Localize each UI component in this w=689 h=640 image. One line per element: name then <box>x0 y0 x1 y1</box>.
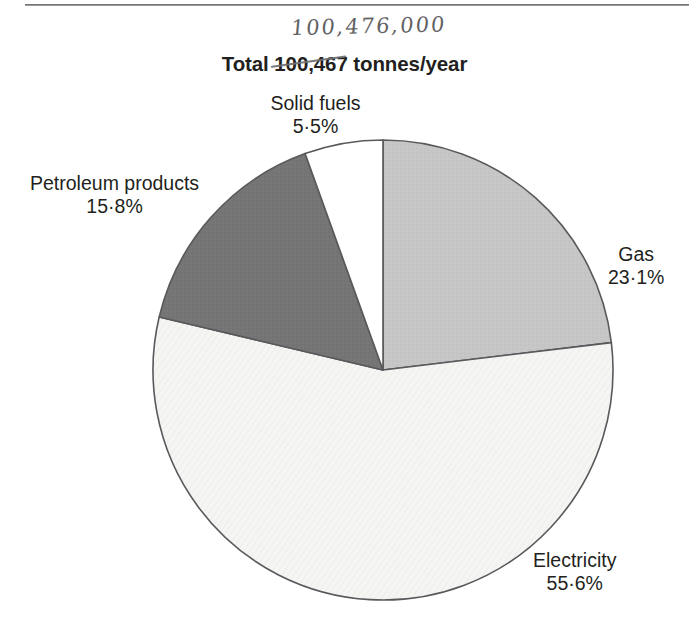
label-petroleum-products-name: Petroleum products <box>30 172 199 195</box>
label-electricity-percent: 55·6% <box>533 572 616 595</box>
label-petroleum-products-percent: 15·8% <box>30 195 199 218</box>
label-solid-fuels: Solid fuels 5·5% <box>0 92 689 139</box>
label-solid-fuels-name: Solid fuels <box>0 92 689 115</box>
bottom-caption-cropped <box>28 632 648 640</box>
label-gas-percent: 23·1% <box>608 266 664 289</box>
label-petroleum-products: Petroleum products 15·8% <box>30 172 199 219</box>
pie-slice-gas[interactable]: Gas 23·1% <box>383 140 611 370</box>
label-gas: Gas 23·1% <box>608 243 664 290</box>
label-solid-fuels-percent: 5·5% <box>0 115 689 138</box>
pie-slice-group: Gas 23·1%Electricity 55·6%Petroleum prod… <box>153 140 613 600</box>
label-electricity-name: Electricity <box>533 549 616 572</box>
label-electricity: Electricity 55·6% <box>533 549 616 596</box>
label-gas-name: Gas <box>608 243 664 266</box>
